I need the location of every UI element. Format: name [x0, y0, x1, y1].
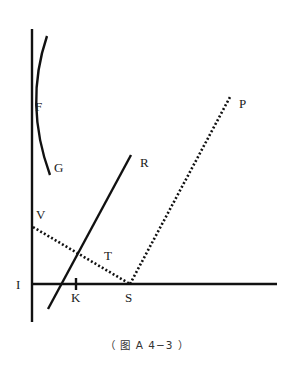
label-r: R [140, 155, 149, 170]
figure-caption: （ 图 A 4−3 ） [0, 337, 294, 352]
label-v: V [36, 207, 46, 222]
label-t: T [104, 248, 112, 263]
dotted-ray-v-to-s [33, 227, 130, 284]
label-k: K [71, 290, 81, 305]
dotted-ray-s-to-p [130, 97, 230, 284]
optics-diagram: F G R P V T I K S [0, 0, 294, 373]
label-s: S [125, 290, 132, 305]
label-p: P [239, 96, 246, 111]
label-f: F [35, 99, 42, 114]
label-g: G [54, 160, 63, 175]
label-i: I [16, 277, 20, 292]
line-r [48, 155, 131, 309]
